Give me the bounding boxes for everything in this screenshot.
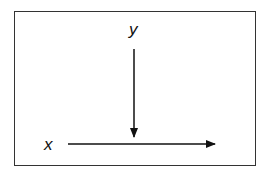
y-axis-label: y	[128, 20, 139, 39]
axes-diagram: y x	[0, 0, 271, 175]
x-axis-label: x	[43, 135, 53, 154]
